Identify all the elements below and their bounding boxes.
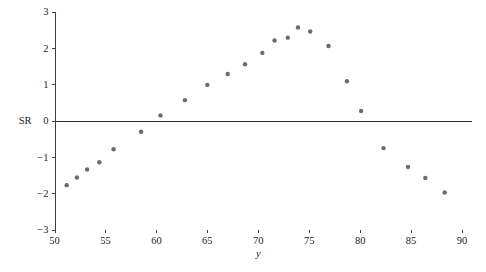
data-point xyxy=(381,146,385,150)
x-tick-label: 85 xyxy=(406,235,417,246)
data-point xyxy=(308,29,312,33)
x-tick-label: 55 xyxy=(100,235,111,246)
data-point xyxy=(158,113,162,117)
data-point xyxy=(243,62,247,66)
plot-area: 3210−1−2−3505560657075808590SRy xyxy=(0,0,486,272)
data-point xyxy=(260,51,264,55)
data-point xyxy=(326,44,330,48)
x-tick-label: 70 xyxy=(253,235,264,246)
y-tick-label: −2 xyxy=(37,188,48,199)
y-tick-label: 2 xyxy=(43,43,48,54)
x-tick-label: 80 xyxy=(355,235,366,246)
y-tick-label: −1 xyxy=(37,152,48,163)
data-point xyxy=(111,147,115,151)
x-tick-label: 75 xyxy=(304,235,315,246)
y-tick-label: −3 xyxy=(37,224,48,235)
y-tick-label: 0 xyxy=(43,115,48,126)
y-axis-title: SR xyxy=(19,115,32,126)
data-point xyxy=(139,130,143,134)
data-point xyxy=(406,165,410,169)
data-point xyxy=(345,79,349,83)
x-tick-label: 50 xyxy=(49,235,60,246)
x-axis-title: y xyxy=(255,248,261,259)
data-point xyxy=(183,98,187,102)
y-tick-label: 3 xyxy=(43,6,48,17)
x-tick-label: 90 xyxy=(457,235,468,246)
data-point xyxy=(286,35,290,39)
data-point xyxy=(65,183,69,187)
data-point xyxy=(442,190,446,194)
scatter-chart: 3210−1−2−3505560657075808590SRy xyxy=(0,0,486,272)
data-point xyxy=(85,167,89,171)
data-point xyxy=(423,176,427,180)
y-tick-label: 1 xyxy=(43,79,48,90)
data-point xyxy=(272,38,276,42)
x-tick-label: 65 xyxy=(202,235,213,246)
data-point xyxy=(359,109,363,113)
data-point xyxy=(75,175,79,179)
data-point xyxy=(225,72,229,76)
data-point xyxy=(296,25,300,29)
data-point xyxy=(97,160,101,164)
x-tick-label: 60 xyxy=(151,235,162,246)
data-point xyxy=(205,83,209,87)
